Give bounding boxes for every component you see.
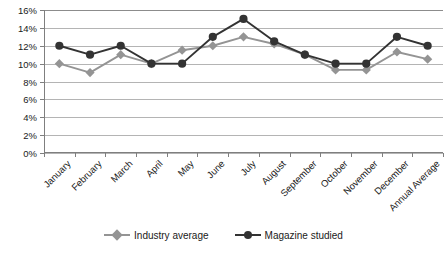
legend-label: Magazine studied	[265, 230, 343, 241]
data-point	[116, 50, 125, 59]
data-point	[147, 60, 155, 68]
y-axis-tick	[40, 153, 44, 154]
y-axis-tick	[40, 28, 44, 29]
y-axis-tick	[40, 64, 44, 65]
data-point	[117, 42, 125, 50]
data-point	[178, 60, 186, 68]
series-lines	[0, 0, 447, 256]
data-point	[208, 41, 217, 50]
legend-key-circle-icon	[235, 229, 261, 241]
series-line	[59, 37, 427, 73]
data-point	[178, 46, 187, 55]
data-point	[423, 55, 432, 64]
legend-marker	[111, 229, 122, 240]
legend-label: Industry average	[134, 230, 209, 241]
data-point	[85, 68, 94, 77]
legend-marker	[244, 231, 252, 239]
legend-item[interactable]: Magazine studied	[235, 229, 343, 241]
data-point	[393, 33, 401, 41]
data-point	[301, 51, 309, 59]
data-point	[270, 37, 278, 45]
line-chart: 0%2%4%6%8%10%12%14%16% JanuaryFebruaryMa…	[0, 0, 447, 256]
y-axis-tick	[40, 46, 44, 47]
data-point	[362, 60, 370, 68]
data-point	[55, 42, 63, 50]
y-axis-tick	[40, 82, 44, 83]
data-point	[239, 15, 247, 23]
legend-key-diamond-icon	[104, 229, 130, 241]
data-point	[392, 47, 401, 56]
data-point	[331, 60, 339, 68]
data-point	[424, 42, 432, 50]
data-point	[209, 33, 217, 41]
y-axis-tick	[40, 99, 44, 100]
y-axis-tick	[40, 135, 44, 136]
data-point	[55, 59, 64, 68]
legend: Industry averageMagazine studied	[0, 229, 447, 241]
data-point	[239, 32, 248, 41]
y-axis-tick	[40, 117, 44, 118]
y-axis-tick	[40, 10, 44, 11]
legend-item[interactable]: Industry average	[104, 229, 209, 241]
data-point	[86, 51, 94, 59]
